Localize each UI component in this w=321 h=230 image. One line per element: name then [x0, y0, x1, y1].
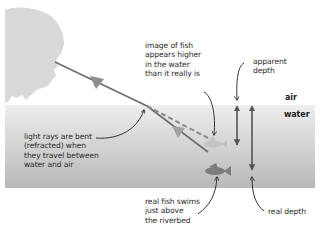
ray-arrowhead-air	[90, 76, 104, 89]
label-image-of-fish: image of fish appears higher in the wate…	[145, 41, 201, 79]
label-air: air	[285, 93, 297, 102]
label-apparent-depth: apparent depth	[253, 57, 287, 76]
label-light-rays: light rays are bent (refracted) when the…	[24, 132, 99, 170]
pointer-apparent-depth	[237, 63, 244, 100]
label-real-depth: real depth	[268, 207, 306, 216]
head-silhouette	[5, 7, 64, 102]
label-real-fish: real fish swims just above the riverbed	[145, 197, 200, 225]
label-water: water	[284, 110, 310, 119]
refraction-diagram	[0, 0, 321, 230]
